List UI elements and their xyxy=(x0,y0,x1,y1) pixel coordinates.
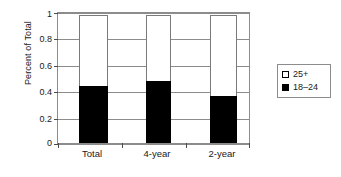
y-tick-label-1.0: 1 xyxy=(47,9,52,19)
y-tick-mark-1.0 xyxy=(54,13,58,14)
y-axis-title: Percent of Total xyxy=(23,0,33,119)
bar-4-year-segment-25plus xyxy=(146,15,171,82)
bar-2-year[interactable] xyxy=(210,11,237,143)
legend-label-25plus: 25+ xyxy=(293,70,308,79)
y-tick-label-0.8: 0.8 xyxy=(39,34,52,44)
y-tick-label-0.6: 0.6 xyxy=(39,61,52,71)
bar-2-year-segment-18-24 xyxy=(210,96,237,143)
legend-row-25plus[interactable]: 25+ xyxy=(282,68,326,81)
legend-label-18-24: 18–24 xyxy=(293,83,318,92)
legend-swatch-filled-square-icon xyxy=(282,84,289,91)
gridline-0.0 xyxy=(58,144,249,145)
y-tick-mark-0.4 xyxy=(54,92,58,93)
legend-swatch-hollow-square-icon xyxy=(282,71,289,78)
y-tick-label-0.0: 0 xyxy=(47,138,52,148)
x-axis-label-4-year: 4-year xyxy=(144,148,171,159)
bar-total-segment-25plus xyxy=(79,15,108,87)
y-tick-mark-0.8 xyxy=(54,39,58,40)
bar-total[interactable] xyxy=(79,11,108,143)
y-tick-mark-0.6 xyxy=(54,66,58,67)
y-tick-label-0.4: 0.4 xyxy=(39,87,52,97)
bar-4-year[interactable] xyxy=(146,11,171,143)
x-tick-mark-left xyxy=(58,143,59,148)
x-tick-mark-1 xyxy=(122,143,123,148)
bar-2-year-segment-25plus xyxy=(210,15,237,97)
bar-total-segment-18-24 xyxy=(79,86,108,143)
legend-row-18-24[interactable]: 18–24 xyxy=(282,81,326,94)
plot-area: 1 0.8 0.6 0.4 0.2 0 xyxy=(57,12,250,144)
bar-4-year-segment-18-24 xyxy=(146,81,171,143)
y-tick-mark-0.2 xyxy=(54,119,58,120)
x-axis-label-total: Total xyxy=(82,148,102,159)
chart-figure: Percent of Total 1 0.8 0.6 0.4 0.2 0 xyxy=(0,0,341,177)
y-tick-label-0.2: 0.2 xyxy=(39,114,52,124)
x-axis-label-2-year: 2-year xyxy=(209,148,236,159)
chart-legend: 25+ 18–24 xyxy=(277,64,331,98)
x-tick-mark-2 xyxy=(186,143,187,148)
x-tick-mark-right xyxy=(249,143,250,148)
